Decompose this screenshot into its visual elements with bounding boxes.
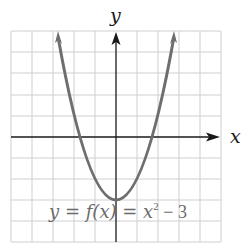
equation-annotation: y = f(x) = x2 − 3 xyxy=(48,200,187,222)
y-axis-label: y xyxy=(109,4,121,26)
x-axis-label: x xyxy=(230,125,241,147)
function-graph: y x y = f(x) = x2 − 3 xyxy=(0,0,248,249)
equation-left: y = f(x) = x xyxy=(48,201,153,222)
equation-right: − 3 xyxy=(159,202,187,222)
